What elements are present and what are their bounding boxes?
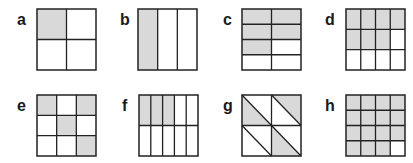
shaded-cell (346, 141, 361, 156)
figure-label-c: c (223, 12, 232, 28)
figure-label-g: g (223, 98, 233, 114)
shaded-cell (346, 126, 361, 141)
shaded-cell (37, 9, 67, 40)
shaded-cell (272, 9, 302, 24)
fraction-square-f (139, 95, 198, 156)
figure-label-d: d (325, 12, 335, 28)
shaded-cell (361, 29, 376, 49)
shaded-cell (361, 110, 376, 125)
fraction-square-e (37, 95, 96, 156)
shaded-cell (138, 9, 158, 70)
shaded-cell (361, 9, 376, 29)
shaded-cell (361, 126, 376, 141)
shaded-cell (346, 110, 361, 125)
shaded-cell (139, 95, 151, 126)
shaded-cell (361, 141, 376, 156)
shaded-cell (242, 24, 272, 39)
shaded-cell (376, 126, 391, 141)
shaded-cell (376, 95, 391, 110)
shaded-cell (346, 95, 361, 110)
shaded-cell (376, 29, 391, 49)
shaded-cell (390, 9, 405, 29)
figure-label-a: a (17, 12, 26, 28)
shaded-cell (376, 110, 391, 125)
shaded-cell (76, 95, 96, 115)
fraction-square-c (242, 9, 301, 70)
shaded-cell (242, 40, 272, 55)
shaded-cell (346, 29, 361, 49)
shaded-cell (390, 95, 405, 110)
shaded-cell (57, 115, 77, 135)
fraction-square-h (346, 95, 405, 156)
shaded-cell (361, 95, 376, 110)
fraction-square-b (138, 9, 197, 70)
shaded-cell (376, 141, 391, 156)
shaded-cell (163, 95, 175, 126)
fraction-square-a (37, 9, 96, 70)
diagonal-line (242, 126, 272, 157)
shaded-cell (37, 95, 57, 115)
shaded-cell (390, 126, 405, 141)
shaded-cell (272, 24, 302, 39)
fraction-square-d (346, 9, 405, 70)
fraction-square-g (242, 95, 301, 156)
figure-label-f: f (122, 98, 127, 114)
figure-label-e: e (17, 98, 26, 114)
shaded-cell (346, 9, 361, 29)
shaded-cell (390, 110, 405, 125)
shaded-cell (76, 136, 96, 156)
figure-label-h: h (325, 98, 335, 114)
shaded-cell (376, 9, 391, 29)
shaded-cell (242, 9, 272, 24)
shaded-cell (151, 95, 163, 126)
figure-label-b: b (120, 12, 130, 28)
